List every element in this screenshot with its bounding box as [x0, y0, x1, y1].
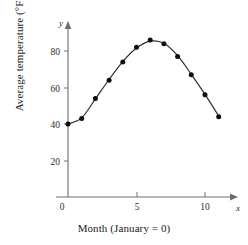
data-point: [120, 59, 125, 64]
data-point: [79, 116, 84, 121]
x-axis-variable-label: x: [235, 203, 240, 213]
x-tick-label-0: 0: [60, 202, 65, 212]
y-tick-label-20: 20: [51, 157, 61, 167]
y-tick-label-80: 80: [51, 47, 61, 57]
data-point: [148, 38, 153, 43]
y-tick-label-40: 40: [51, 120, 61, 130]
data-point: [189, 72, 194, 77]
x-tick-label-5: 5: [135, 202, 140, 212]
data-point: [93, 96, 98, 101]
x-tick-label-10: 10: [200, 202, 210, 212]
chart-plot-area: 80 60 40 20 0 5 10 y x: [0, 0, 248, 245]
x-axis-arrow-icon: [230, 194, 238, 201]
data-point: [107, 78, 112, 83]
data-point: [175, 54, 180, 59]
data-point: [216, 114, 221, 119]
y-axis-arrow-icon: [65, 21, 72, 29]
data-point: [161, 41, 166, 46]
y-tick-label-60: 60: [51, 84, 61, 94]
data-point: [134, 45, 139, 50]
temperature-chart-figure: 80 60 40 20 0 5 10 y x Average temperatu…: [0, 0, 248, 245]
y-axis-title: Average temperature (°F): [13, 0, 25, 139]
data-point: [203, 92, 208, 97]
y-axis-variable-label: y: [58, 18, 63, 28]
data-point-group: [66, 38, 222, 127]
data-point: [66, 122, 71, 127]
fitted-curve: [68, 41, 219, 124]
x-axis-title: Month (January = 0): [0, 222, 248, 234]
